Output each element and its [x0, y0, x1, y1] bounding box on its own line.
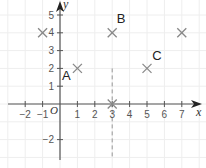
- tick-labels: −2−1123456754321−2: [19, 10, 185, 146]
- x-tick-label: 3: [109, 109, 115, 120]
- x-tick-label: −1: [37, 109, 49, 120]
- y-tick-label: 5: [48, 10, 54, 21]
- x-tick-label: −2: [19, 109, 31, 120]
- y-tick-label: 4: [48, 27, 54, 38]
- x-tick-label: 6: [162, 109, 168, 120]
- x-tick-label: 7: [179, 109, 185, 120]
- grid-lines: [0, 0, 206, 168]
- y-tick-label: 3: [48, 45, 54, 56]
- x-tick-label: 4: [127, 109, 133, 120]
- x-tick-label: 1: [75, 109, 81, 120]
- plot-canvas: −2−1123456754321−2 x y O ABC: [0, 0, 206, 168]
- point-label: A: [62, 68, 71, 83]
- y-axis-label: y: [62, 0, 69, 11]
- y-tick-label: 1: [48, 81, 54, 92]
- point-label: B: [117, 11, 126, 26]
- point-a: A: [62, 64, 82, 84]
- x-axis-label: x: [195, 105, 202, 119]
- x-tick-label: 5: [144, 109, 150, 120]
- axes: [8, 1, 202, 160]
- origin-label: O: [50, 104, 58, 116]
- coordinate-plane: −2−1123456754321−2 x y O ABC: [0, 0, 206, 168]
- point-label: C: [152, 48, 161, 63]
- point-c: C: [143, 48, 162, 73]
- y-tick-label: 2: [48, 63, 54, 74]
- x-tick-label: 2: [92, 109, 98, 120]
- y-tick-label: −2: [43, 134, 55, 145]
